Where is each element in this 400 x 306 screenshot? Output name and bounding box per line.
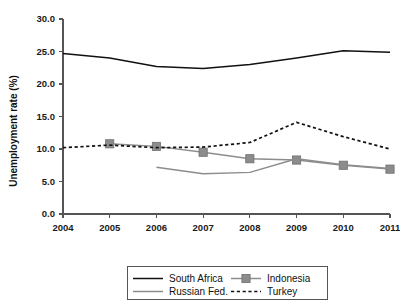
data-point-marker — [106, 140, 114, 148]
y-tick-label: 0.0 — [42, 208, 55, 219]
y-tick-label: 10.0 — [37, 143, 56, 154]
legend-label: Indonesia — [267, 273, 311, 284]
unemployment-rate-line-chart: 0.05.010.015.020.025.030.0 2004200520062… — [0, 0, 400, 306]
legend-label: Russian Fed. — [169, 286, 228, 297]
legend-label: Turkey — [267, 286, 297, 297]
chart-container: 0.05.010.015.020.025.030.0 2004200520062… — [0, 0, 400, 306]
y-tick-label: 25.0 — [37, 46, 56, 57]
x-tick-label: 2008 — [239, 222, 260, 233]
y-tick-label: 30.0 — [37, 13, 56, 24]
x-tick-label: 2011 — [380, 222, 400, 233]
x-tick-label: 2006 — [146, 222, 167, 233]
x-tick-label: 2007 — [193, 222, 214, 233]
legend-item-indonesia[interactable]: Indonesia — [231, 273, 311, 284]
chart-legend: South AfricaIndonesiaRussian Fed.Turkey — [127, 266, 327, 299]
data-point-marker — [152, 142, 160, 150]
data-point-marker — [246, 155, 254, 163]
x-tick-label: 2009 — [286, 222, 307, 233]
x-tick-label: 2010 — [333, 222, 354, 233]
data-point-marker — [199, 148, 207, 156]
data-point-marker — [386, 165, 394, 173]
x-tick-label: 2004 — [52, 222, 74, 233]
y-tick-label: 15.0 — [37, 111, 56, 122]
y-tick-label: 5.0 — [42, 176, 55, 187]
x-tick-label: 2005 — [99, 222, 121, 233]
y-tick-label: 20.0 — [37, 78, 56, 89]
legend-swatch-marker — [242, 274, 250, 282]
legend-label: South Africa — [169, 273, 223, 284]
y-axis-title: Unemployment rate (%) — [8, 75, 19, 187]
